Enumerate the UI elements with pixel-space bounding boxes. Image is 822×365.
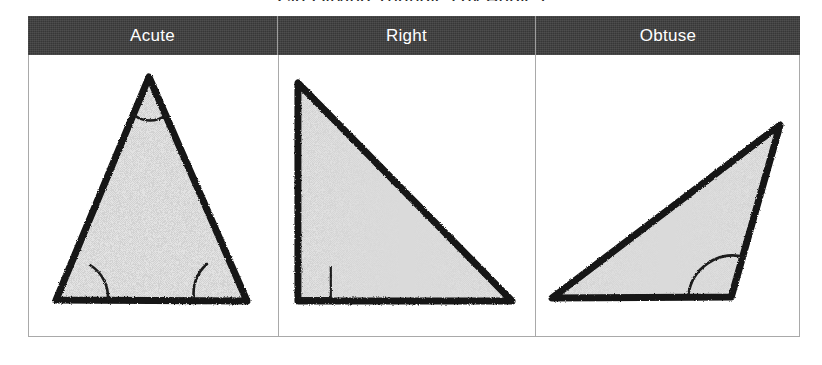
triangle-classification-table: Acute Right Obtuse: [28, 16, 800, 337]
column-header-obtuse: Obtuse: [535, 16, 800, 55]
cell-acute: [29, 55, 278, 336]
obtuse-triangle-shape: [552, 125, 780, 298]
cell-right: [278, 55, 535, 336]
cell-obtuse: [535, 55, 799, 336]
right-triangle-figure: [279, 55, 535, 336]
column-header-right: Right: [277, 16, 535, 55]
acute-triangle-figure: [29, 55, 278, 336]
obtuse-triangle-figure: [536, 55, 799, 336]
column-header-acute: Acute: [28, 16, 277, 55]
acute-triangle-shape: [56, 77, 247, 301]
figure-title: Classifying Triangles by Angles: [0, 0, 822, 1]
table-body-row: [29, 55, 799, 336]
table-header-row: Acute Right Obtuse: [28, 16, 800, 55]
